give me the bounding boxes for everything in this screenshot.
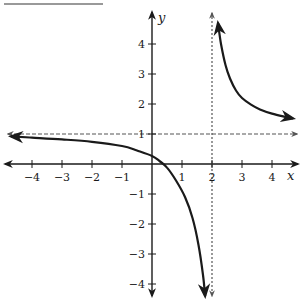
x-tick-label: −2: [84, 171, 100, 184]
y-tick-label: 3: [138, 68, 145, 81]
x-tick-label: −4: [24, 171, 40, 184]
y-tick-label: 4: [138, 38, 145, 51]
rational-function-graph: −4−3−2−11234 4321−1−2−3−4 x y: [0, 0, 303, 299]
y-tick-label: −3: [129, 248, 145, 261]
y-axis-label: y: [157, 10, 166, 25]
y-tick-label: −4: [129, 278, 145, 291]
curve-right-branch: [218, 23, 293, 118]
x-tick-label: 3: [239, 171, 246, 184]
x-tick-label: 1: [179, 171, 186, 184]
y-tick-label: 1: [138, 128, 145, 141]
x-tick-label: −1: [114, 171, 130, 184]
y-tick-label: 2: [138, 98, 145, 111]
x-tick-label: −3: [54, 171, 70, 184]
x-axis-label: x: [287, 168, 295, 183]
y-tick-label: −1: [129, 188, 145, 201]
x-tick-label: 4: [269, 171, 276, 184]
y-tick-label: −2: [129, 218, 145, 231]
x-tick-label: 2: [209, 171, 216, 184]
curve-left-branch: [11, 136, 205, 296]
